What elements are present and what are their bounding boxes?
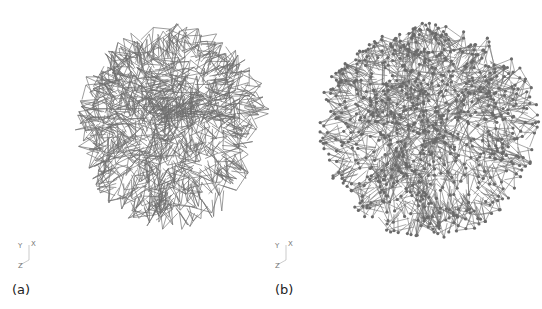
panel-label-b: (b) xyxy=(275,282,293,297)
svg-text:X: X xyxy=(31,240,36,248)
network-ball-stick-plot: X Y Z xyxy=(271,0,542,309)
svg-text:Y: Y xyxy=(17,242,23,250)
svg-text:Z: Z xyxy=(275,262,280,270)
svg-text:Y: Y xyxy=(274,242,280,250)
svg-text:Z: Z xyxy=(18,262,23,270)
svg-text:X: X xyxy=(288,240,293,248)
network-wireframe-plot: X Y Z xyxy=(0,0,271,309)
network-edges xyxy=(75,24,269,230)
axis-triad-icon: X Y Z xyxy=(274,240,293,270)
panel-label-a: (a) xyxy=(12,282,30,297)
figure-panel-b: X Y Z (b) xyxy=(271,0,542,309)
figure-panel-a: X Y Z (a) xyxy=(0,0,271,309)
axis-triad-icon: X Y Z xyxy=(17,240,36,270)
